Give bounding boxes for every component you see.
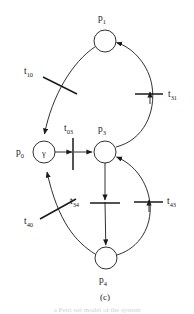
transition-t03-label-sub: 03 bbox=[67, 128, 73, 135]
transition-t43-label-sub: 43 bbox=[170, 201, 176, 208]
place-p1-label-sub: 1 bbox=[103, 18, 106, 25]
arc-p4-to-p3 bbox=[117, 157, 151, 255]
place-p1-label: p1 bbox=[98, 13, 106, 25]
page-bottom-partial-text: a Petri net model of the system bbox=[0, 305, 194, 314]
place-p4-label: p4 bbox=[99, 275, 108, 287]
transition-t43-label: t43 bbox=[167, 196, 176, 208]
transition-t34-label: t34 bbox=[70, 196, 80, 208]
transition-bar-t10 bbox=[43, 77, 77, 94]
place-p0-label: p0 bbox=[16, 147, 24, 159]
place-p4-label-sub: 4 bbox=[104, 280, 108, 287]
place-p0-token: γ bbox=[41, 148, 46, 158]
transition-t40-label-sub: 40 bbox=[27, 221, 33, 228]
transition-t10-label-sub: 10 bbox=[27, 71, 33, 78]
transition-t31-label: t31 bbox=[168, 89, 177, 101]
petri-net-figure: γ p0 p1 p3 p4 t10 t31 t03 t34 t43 t40 (c… bbox=[0, 0, 194, 314]
transition-t40-label: t40 bbox=[24, 216, 33, 228]
transition-t10-label: t10 bbox=[24, 66, 33, 78]
arc-t34-to-p4 bbox=[105, 202, 106, 245]
place-p3-label-sub: 3 bbox=[103, 129, 106, 136]
transition-t34-label-sub: 34 bbox=[73, 201, 80, 208]
arc-p4-to-p0 bbox=[47, 172, 95, 254]
place-p3-label: p3 bbox=[98, 124, 106, 136]
petri-net-canvas: γ p0 p1 p3 p4 t10 t31 t03 t34 t43 t40 (c… bbox=[0, 0, 194, 314]
place-p4[interactable] bbox=[95, 247, 117, 269]
transition-t31-label-sub: 31 bbox=[171, 94, 177, 101]
transition-t03-label: t03 bbox=[64, 123, 73, 135]
place-p1[interactable] bbox=[94, 30, 116, 52]
place-p3[interactable] bbox=[94, 141, 116, 163]
place-p0-label-sub: 0 bbox=[21, 152, 24, 159]
figure-caption: (c) bbox=[100, 292, 110, 302]
